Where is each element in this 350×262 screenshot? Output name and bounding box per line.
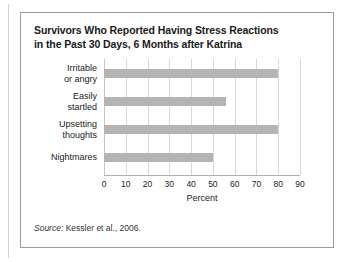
figure-title-line-2: in the Past 30 Days, 6 Months after Katr… [34,37,324,51]
category-label-line: startled [0,102,97,113]
bar-row [104,144,300,172]
category-label-line: Irritable [0,63,97,74]
x-axis-title: Percent [104,193,300,203]
x-tick-0: 0 [102,179,107,189]
x-tick-10: 10 [121,179,130,189]
bar-row [104,60,300,88]
figure-box: Survivors Who Reported Having Stress Rea… [20,12,334,248]
x-tick-20: 20 [143,179,152,189]
x-tick-50: 50 [208,179,217,189]
figure-page: Survivors Who Reported Having Stress Rea… [0,0,350,262]
bar-3 [104,125,278,134]
x-tick-30: 30 [165,179,174,189]
x-axis-line [104,175,300,176]
x-tick-70: 70 [252,179,261,189]
x-tick-60: 60 [230,179,239,189]
bar-1 [104,69,278,78]
category-label-line: thoughts [0,130,97,141]
source-note: Source: Kessler et al., 2006. [34,223,141,233]
x-tick-90: 90 [295,179,304,189]
category-label-2: Easilystartled [0,91,97,112]
x-tick-80: 80 [273,179,282,189]
category-label-line: Upsetting [0,119,97,130]
bar-row [104,88,300,116]
category-label-3: Upsettingthoughts [0,119,97,140]
source-label: Source: [34,223,63,233]
figure-title-line-1: Survivors Who Reported Having Stress Rea… [34,24,279,36]
category-label-line: Nightmares [0,152,97,163]
category-label-4: Nightmares [0,152,97,163]
plot-area [104,59,300,175]
bar-chart: Irritableor angryEasilystartledUpsetting… [21,59,335,209]
category-label-1: Irritableor angry [0,63,97,84]
figure-title: Survivors Who Reported Having Stress Rea… [34,23,324,51]
bar-2 [104,97,226,106]
bar-row [104,116,300,144]
bar-4 [104,153,213,162]
category-label-line: or angry [0,74,97,85]
gridline-90 [300,59,301,175]
source-citation: Kessler et al., 2006. [66,223,141,233]
category-label-line: Easily [0,91,97,102]
x-tick-40: 40 [186,179,195,189]
